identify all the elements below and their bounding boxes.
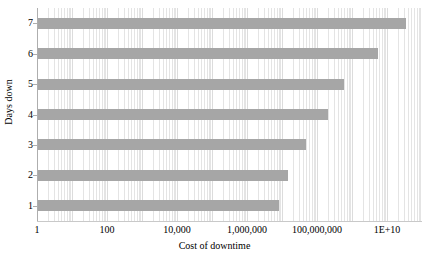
bar-row [37,38,422,68]
bar [37,170,288,181]
x-tick-label: 100,000,000 [292,224,342,236]
x-tick-label: 10,000 [163,224,191,236]
y-tick-label: 3 [5,140,33,150]
plot-area [37,8,422,221]
bar-row [37,99,422,129]
bar-row [37,69,422,99]
x-tick-label: 1,000,000 [227,224,267,236]
bar [37,200,279,211]
bar-chart: 1234567 110010,0001,000,000100,000,0001E… [0,0,429,267]
bar-row [37,191,422,221]
y-tick-label: 2 [5,170,33,180]
x-axis-ticks: 110010,0001,000,000100,000,0001E+10 [0,224,429,240]
bar-row [37,8,422,38]
y-tick-label: 1 [5,201,33,211]
y-tick-mark [33,175,37,176]
y-tick-label: 6 [5,49,33,59]
y-tick-label: 7 [5,18,33,28]
bar [37,109,328,120]
y-tick-mark [33,206,37,207]
x-tick-label: 1E+10 [374,224,401,236]
y-tick-mark [33,145,37,146]
x-tick-label: 100 [100,224,115,236]
y-tick-mark [33,84,37,85]
bar [37,48,378,59]
x-axis-title: Cost of downtime [0,240,429,252]
x-axis-line [37,221,422,222]
y-tick-mark [33,54,37,55]
bar-series [37,8,422,221]
y-tick-mark [33,115,37,116]
bar [37,18,406,29]
x-tick-label: 1 [35,224,40,236]
y-tick-mark [33,23,37,24]
y-axis-title: Days down [3,72,15,132]
bar [37,139,306,150]
bar-row [37,130,422,160]
y-axis-line [37,8,38,221]
bar-row [37,160,422,190]
bar [37,79,344,90]
